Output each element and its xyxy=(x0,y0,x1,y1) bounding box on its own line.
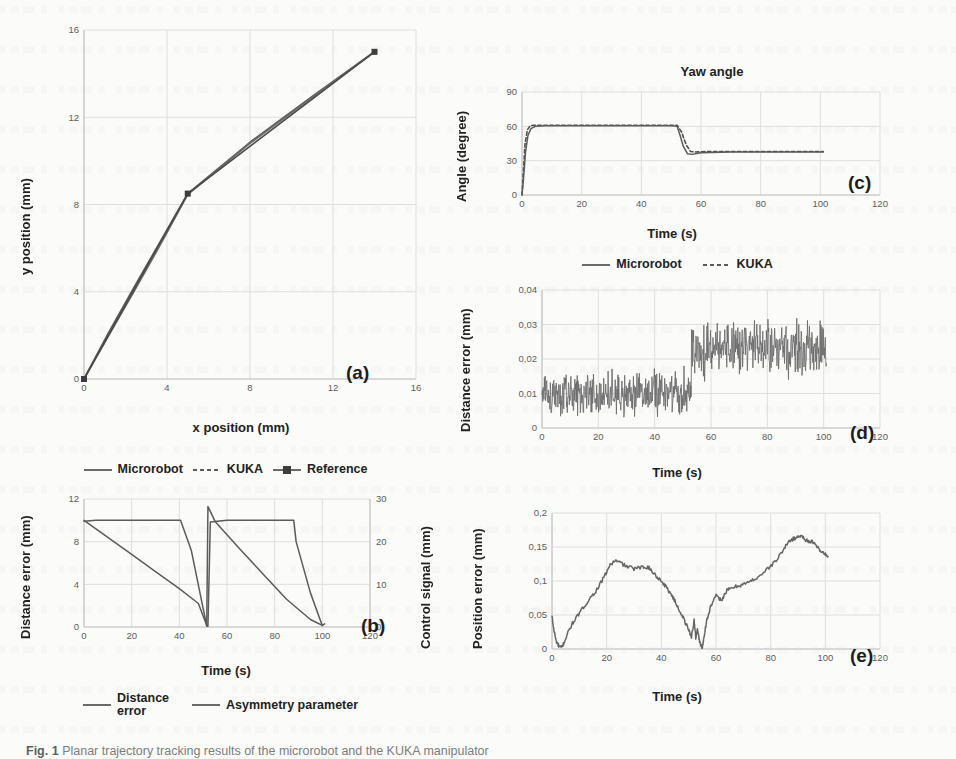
panel-a-legend-label-0: Microrobot xyxy=(118,463,183,476)
svg-text:40: 40 xyxy=(174,630,185,641)
panel-d-y-axis-label: Distance error (mm) xyxy=(458,288,473,453)
svg-text:0: 0 xyxy=(81,382,86,393)
svg-text:20: 20 xyxy=(576,198,587,209)
svg-text:40: 40 xyxy=(649,431,660,442)
svg-text:10: 10 xyxy=(376,579,387,590)
panel-a-legend-label-2: Reference xyxy=(307,463,367,476)
panel-b-legend-item-0: Distance error xyxy=(82,692,169,718)
figure-canvas: y position (mm) 04812160481216 x positio… xyxy=(0,0,956,759)
svg-text:0: 0 xyxy=(512,189,517,200)
panel-a-legend-item-1: KUKA xyxy=(192,463,263,476)
svg-text:80: 80 xyxy=(755,198,766,209)
legend-swatch-solid xyxy=(581,259,611,271)
svg-text:40: 40 xyxy=(636,198,647,209)
svg-text:0,15: 0,15 xyxy=(529,541,548,552)
panel-a-x-axis-label: x position (mm) xyxy=(76,420,406,435)
svg-text:4: 4 xyxy=(74,579,79,590)
svg-text:80: 80 xyxy=(762,431,773,442)
figure-caption: Fig. 1 Planar trajectory tracking result… xyxy=(26,744,936,759)
panel-e-position-error: Position error (mm) 02040608010012000,05… xyxy=(452,503,942,703)
svg-text:0,1: 0,1 xyxy=(534,575,547,586)
panel-a-legend: MicrorobotKUKAReference xyxy=(60,463,390,476)
panel-d-distance-error: Distance error (mm) 02040608010012000,01… xyxy=(452,282,942,482)
svg-text:4: 4 xyxy=(74,286,79,297)
svg-text:0: 0 xyxy=(74,621,79,632)
svg-text:0: 0 xyxy=(539,431,544,442)
panel-c-legend-item-1: KUKA xyxy=(702,258,773,271)
svg-text:12: 12 xyxy=(68,112,79,123)
svg-text:80: 80 xyxy=(269,630,280,641)
panel-d-tag: (d) xyxy=(850,422,874,444)
svg-text:0: 0 xyxy=(549,652,554,663)
svg-text:100: 100 xyxy=(812,198,828,209)
legend-swatch-solid xyxy=(82,699,112,711)
panel-c-title: Yaw angle xyxy=(562,64,862,79)
svg-text:120: 120 xyxy=(872,431,888,442)
panel-a-y-axis-label: y position (mm) xyxy=(18,132,33,322)
svg-text:80: 80 xyxy=(765,652,776,663)
svg-text:40: 40 xyxy=(656,652,667,663)
panel-b-x-axis-label: Time (s) xyxy=(76,663,376,678)
panel-e-x-axis-label: Time (s) xyxy=(532,689,822,704)
svg-text:30: 30 xyxy=(506,155,517,166)
panel-c-x-axis-label: Time (s) xyxy=(522,226,822,241)
legend-swatch-marker xyxy=(272,464,302,476)
panel-d-plot: 02040608010012000,010,020,030,04 xyxy=(512,284,890,444)
panel-a-legend-label-1: KUKA xyxy=(227,463,263,476)
svg-text:60: 60 xyxy=(706,431,717,442)
svg-text:20: 20 xyxy=(601,652,612,663)
legend-swatch-dashed xyxy=(702,259,732,271)
panel-c-legend-item-0: Microrobot xyxy=(581,258,681,271)
svg-text:16: 16 xyxy=(68,24,79,35)
panel-d-x-axis-label: Time (s) xyxy=(532,465,822,480)
svg-text:100: 100 xyxy=(314,630,330,641)
panel-b-right-y-axis-label: Control signal (mm) xyxy=(418,505,433,670)
panel-b-plot: 020406080100120048120102030 xyxy=(62,493,392,643)
svg-text:20: 20 xyxy=(376,536,387,547)
svg-text:60: 60 xyxy=(222,630,233,641)
panel-c-yaw-angle: Yaw angle Angle (degree) 020406080100120… xyxy=(452,64,942,254)
panel-c-legend-label-0: Microrobot xyxy=(616,258,681,271)
panel-b-legend-label-1: Asymmetry parameter xyxy=(226,699,358,712)
panel-c-legend: MicrorobotKUKA xyxy=(512,258,842,271)
svg-text:8: 8 xyxy=(74,536,79,547)
svg-text:0,02: 0,02 xyxy=(519,353,538,364)
panel-b-legend-item-1: Asymmetry parameter xyxy=(191,699,358,712)
svg-text:0: 0 xyxy=(74,373,79,384)
svg-text:20: 20 xyxy=(126,630,137,641)
svg-text:0,03: 0,03 xyxy=(519,319,538,330)
svg-text:12: 12 xyxy=(328,382,339,393)
svg-text:0,05: 0,05 xyxy=(529,609,548,620)
panel-b-y-axis-label: Distance error (mm) xyxy=(18,497,33,657)
panel-a-plot: 04812160481216 xyxy=(54,22,424,397)
figure-caption-label: Fig. 1 xyxy=(26,744,59,758)
panel-a-trajectory: y position (mm) 04812160481216 x positio… xyxy=(16,22,426,452)
panel-a-legend-item-2: Reference xyxy=(272,463,367,476)
panel-b-legend-label-0: Distance error xyxy=(117,692,169,718)
svg-text:60: 60 xyxy=(711,652,722,663)
panel-a-legend-item-0: Microrobot xyxy=(83,463,183,476)
panel-e-plot: 02040608010012000,050,10,150,2 xyxy=(518,507,890,665)
panel-c-plot: 0204060801001200306090 xyxy=(500,86,890,211)
panel-a-tag: (a) xyxy=(346,362,369,384)
svg-text:0,01: 0,01 xyxy=(519,388,538,399)
panel-e-tag: (e) xyxy=(850,645,873,667)
svg-text:120: 120 xyxy=(872,652,888,663)
panel-b-distance-error: Distance error (mm) 02040608010012004812… xyxy=(16,487,436,687)
svg-text:100: 100 xyxy=(816,431,832,442)
svg-text:8: 8 xyxy=(247,382,252,393)
svg-text:8: 8 xyxy=(74,199,79,210)
panel-c-legend-label-1: KUKA xyxy=(737,258,773,271)
svg-text:30: 30 xyxy=(376,493,387,504)
panel-c-tag: (c) xyxy=(848,172,871,194)
panel-b-legend: Distance errorAsymmetry parameter xyxy=(55,692,385,718)
svg-text:60: 60 xyxy=(506,121,517,132)
svg-text:0: 0 xyxy=(542,643,547,654)
svg-text:0,04: 0,04 xyxy=(519,284,538,295)
svg-text:20: 20 xyxy=(593,431,604,442)
svg-text:4: 4 xyxy=(164,382,169,393)
legend-swatch-solid xyxy=(191,699,221,711)
panel-e-y-axis-label: Position error (mm) xyxy=(470,509,485,669)
svg-text:12: 12 xyxy=(68,493,79,504)
legend-swatch-dashed xyxy=(192,464,222,476)
